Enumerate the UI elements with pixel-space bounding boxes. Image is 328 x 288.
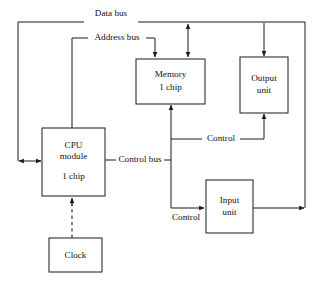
input-unit-label-line2: unit [222, 207, 237, 217]
output-unit-label-line1: Output [251, 73, 277, 83]
diagram-svg: CPU module 1 chip Memory 1 chip Output u… [0, 0, 328, 288]
cpu-module-label-line3: 1 chip [62, 171, 85, 181]
output-unit-label-line2: unit [257, 85, 272, 95]
cpu-module-label-line1: CPU [65, 140, 83, 150]
block-diagram-canvas: CPU module 1 chip Memory 1 chip Output u… [0, 0, 328, 288]
cpu-module-label-line2: module [60, 151, 88, 161]
data-bus-label: Data bus [95, 8, 128, 18]
control-bus-label: Control bus [118, 154, 162, 164]
cpu-module-box[interactable] [42, 128, 105, 196]
input-unit-label-line1: Input [220, 195, 240, 205]
control-input-label: Control [172, 212, 201, 222]
control-output-label: Control [207, 133, 236, 143]
memory-label-line2: 1 chip [159, 82, 182, 92]
clock-label: Clock [65, 250, 87, 260]
address-bus-label: Address bus [94, 32, 140, 42]
memory-label-line1: Memory [155, 69, 187, 79]
